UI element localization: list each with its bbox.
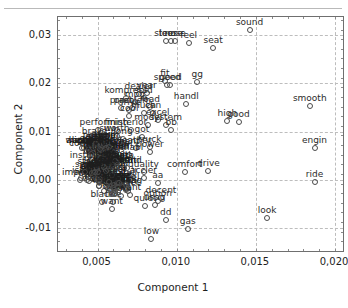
data-point-cluster [123, 182, 129, 188]
x-minor-tick [98, 17, 99, 19]
data-point [163, 217, 169, 223]
x-minor-tick [98, 249, 99, 251]
x-minor-tick [82, 17, 83, 19]
data-point [194, 79, 200, 85]
point-label: feel [180, 31, 197, 40]
data-point-cluster [127, 192, 133, 198]
x-minor-tick [161, 17, 162, 19]
x-minor-tick [335, 17, 336, 19]
y-minor-tick [58, 78, 60, 79]
data-point [307, 103, 313, 109]
y-minor-tick [341, 30, 343, 31]
x-minor-tick [272, 249, 273, 251]
data-point [264, 215, 270, 221]
x-minor-tick [145, 17, 146, 19]
point-label-cluster: worth [82, 160, 108, 169]
y-minor-tick [341, 164, 343, 165]
y-minor-tick [341, 251, 343, 252]
x-minor-tick [335, 249, 336, 251]
point-label: seat [204, 36, 223, 45]
y-minor-tick [341, 20, 343, 21]
y-minor-tick [58, 30, 60, 31]
point-label: bb [165, 118, 176, 127]
y-minor-tick [341, 49, 343, 50]
data-point [247, 27, 253, 33]
gridline-horizontal-4 [58, 35, 343, 36]
data-point [186, 40, 192, 46]
y-minor-tick [58, 251, 60, 252]
gridline-vertical-1 [177, 17, 178, 251]
y-minor-tick [341, 87, 343, 88]
x-minor-tick [177, 17, 178, 19]
y-minor-tick [341, 58, 343, 59]
y-tick-label-0: -0,01 [17, 221, 51, 232]
point-label: gg [192, 70, 203, 79]
point-label: smooth [293, 94, 327, 103]
gridline-horizontal-3 [58, 83, 343, 84]
x-minor-tick [319, 17, 320, 19]
y-minor-tick [58, 222, 60, 223]
y-minor-tick [58, 116, 60, 117]
y-minor-tick [58, 193, 60, 194]
x-minor-tick [193, 249, 194, 251]
data-point [183, 101, 189, 107]
y-minor-tick [341, 174, 343, 175]
gridline-vertical-2 [256, 17, 257, 251]
data-point [168, 127, 174, 133]
x-minor-tick [129, 17, 130, 19]
y-minor-tick [341, 116, 343, 117]
y-minor-tick [58, 87, 60, 88]
data-point [147, 149, 153, 155]
x-minor-tick [288, 249, 289, 251]
data-point [142, 203, 148, 209]
point-label: good [159, 73, 181, 82]
data-point [148, 236, 154, 242]
point-label-cluster: year [109, 171, 129, 180]
x-minor-tick [240, 249, 241, 251]
x-minor-tick [256, 249, 257, 251]
x-minor-tick [303, 17, 304, 19]
data-point-cluster [106, 179, 112, 185]
point-label: handl [174, 92, 199, 101]
y-minor-tick [58, 107, 60, 108]
y-minor-tick [341, 212, 343, 213]
y-minor-tick [341, 155, 343, 156]
data-point [172, 38, 178, 44]
data-point [182, 169, 188, 175]
y-minor-tick [341, 135, 343, 136]
y-minor-tick [58, 97, 60, 98]
x-axis-label: Component 1 [0, 281, 346, 293]
point-label: engin [302, 136, 327, 145]
y-minor-tick [58, 241, 60, 242]
x-minor-tick [272, 17, 273, 19]
point-label: sound [236, 18, 263, 27]
data-point [185, 226, 191, 232]
point-label: drive [197, 159, 220, 168]
point-label: gas [180, 217, 196, 226]
y-minor-tick [58, 145, 60, 146]
y-minor-tick [58, 135, 60, 136]
point-label: dd [160, 208, 171, 217]
data-point [236, 119, 242, 125]
x-minor-tick [82, 249, 83, 251]
data-point-cluster [116, 180, 122, 186]
data-point [152, 202, 158, 208]
top-divider-rule [4, 8, 342, 9]
point-label: look [258, 206, 277, 215]
x-minor-tick [66, 17, 67, 19]
y-minor-tick [341, 68, 343, 69]
y-minor-tick [58, 39, 60, 40]
x-minor-tick [113, 17, 114, 19]
y-tick-label-4: 0,03 [17, 29, 51, 40]
x-tick-label-0: 0,005 [82, 256, 111, 267]
data-point [167, 82, 173, 88]
data-point-cluster [92, 169, 98, 175]
x-minor-tick [208, 17, 209, 19]
x-minor-tick [208, 249, 209, 251]
y-minor-tick [341, 78, 343, 79]
gridline-vertical-3 [335, 17, 336, 251]
x-tick-label-1: 0,010 [161, 256, 190, 267]
x-minor-tick [161, 249, 162, 251]
data-point [312, 179, 318, 185]
